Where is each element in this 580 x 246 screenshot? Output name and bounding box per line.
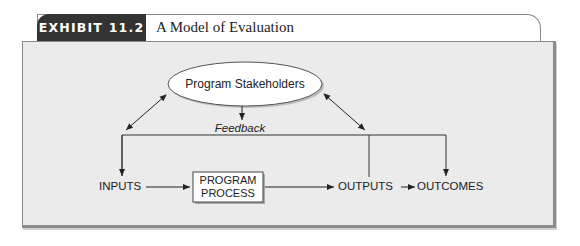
diagram-lines: [0, 0, 580, 246]
inputs-label: INPUTS: [99, 180, 141, 192]
process-line-1: PROGRAM: [193, 174, 263, 187]
outputs-label: OUTPUTS: [338, 180, 393, 192]
stakeholders-label: Program Stakeholders: [168, 77, 322, 91]
program-process-label: PROGRAM PROCESS: [193, 174, 263, 200]
process-line-2: PROCESS: [193, 187, 263, 200]
outcomes-label: OUTCOMES: [417, 180, 483, 192]
feedback-label: Feedback: [205, 122, 275, 134]
